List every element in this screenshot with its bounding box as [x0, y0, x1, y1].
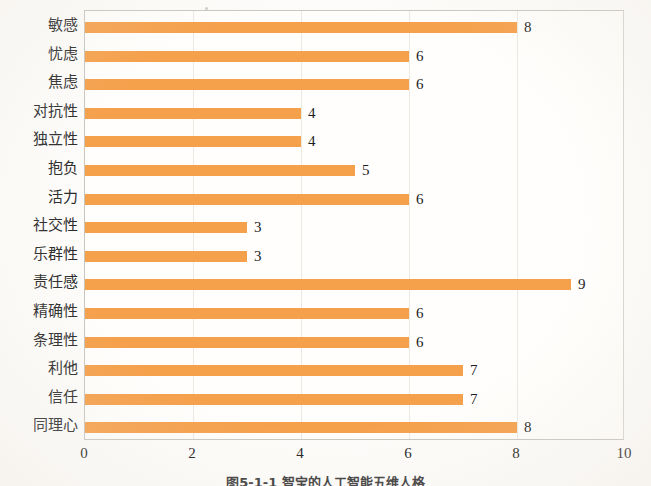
bar-value-label: 3	[254, 249, 262, 264]
bar	[85, 394, 463, 405]
category-label: 焦虑	[0, 74, 78, 90]
bar-row	[85, 413, 623, 442]
bar-row	[85, 185, 623, 214]
category-label: 忧虑	[0, 46, 78, 62]
category-label: 信任	[0, 389, 78, 405]
bar-row	[85, 328, 623, 357]
bar	[85, 365, 463, 376]
bar-value-label: 4	[308, 106, 316, 121]
bar-row	[85, 299, 623, 328]
bar-row	[85, 127, 623, 156]
bar-row	[85, 213, 623, 242]
category-label: 同理心	[0, 417, 78, 433]
category-label: 精确性	[0, 303, 78, 319]
bar-value-label: 6	[416, 335, 424, 350]
bar	[85, 422, 517, 433]
bar	[85, 251, 247, 262]
bar	[85, 79, 409, 90]
category-axis-labels: 敏感忧虑焦虑对抗性独立性抱负活力社交性乐群性责任感精确性条理性利他信任同理心	[0, 10, 78, 440]
bar	[85, 136, 301, 147]
x-tick-label: 2	[172, 445, 212, 462]
plot-area: 866445633966778	[84, 10, 624, 440]
bar-value-label: 8	[524, 20, 532, 35]
bar-value-label: 8	[524, 420, 532, 435]
category-label: 活力	[0, 189, 78, 205]
chart-page: 866445633966778 敏感忧虑焦虑对抗性独立性抱负活力社交性乐群性责任…	[0, 0, 651, 486]
bar-row	[85, 99, 623, 128]
bar	[85, 108, 301, 119]
category-label: 乐群性	[0, 246, 78, 262]
bar	[85, 22, 517, 33]
bar-value-label: 6	[416, 306, 424, 321]
x-tick-label: 8	[496, 445, 536, 462]
bar-row	[85, 270, 623, 299]
bar-row	[85, 242, 623, 271]
bar	[85, 308, 409, 319]
bar-value-label: 7	[470, 392, 478, 407]
bar	[85, 51, 409, 62]
bar-value-label: 6	[416, 192, 424, 207]
bar-value-label: 4	[308, 134, 316, 149]
bar-row	[85, 70, 623, 99]
x-tick-label: 6	[388, 445, 428, 462]
scan-artifact-speck	[205, 7, 208, 10]
bar	[85, 165, 355, 176]
bar	[85, 337, 409, 348]
x-axis: 0246810	[84, 441, 624, 465]
bar-value-label: 7	[470, 363, 478, 378]
x-tick-label: 4	[280, 445, 320, 462]
bar-value-label: 9	[578, 277, 586, 292]
category-label: 责任感	[0, 274, 78, 290]
bar-row	[85, 13, 623, 42]
category-label: 社交性	[0, 217, 78, 233]
category-label: 对抗性	[0, 103, 78, 119]
bar-value-label: 3	[254, 220, 262, 235]
bar	[85, 194, 409, 205]
category-label: 抱负	[0, 160, 78, 176]
bar-row	[85, 156, 623, 185]
category-label: 条理性	[0, 332, 78, 348]
x-tick-label: 0	[64, 445, 104, 462]
bar-row	[85, 385, 623, 414]
bar-value-label: 5	[362, 163, 370, 178]
bar	[85, 222, 247, 233]
category-label: 独立性	[0, 131, 78, 147]
bar-value-label: 6	[416, 49, 424, 64]
figure-caption: 图5-1-1 智宝的人工智能五维人格	[0, 472, 651, 486]
bar-row	[85, 42, 623, 71]
bar-row	[85, 356, 623, 385]
category-label: 利他	[0, 360, 78, 376]
x-tick-label: 10	[604, 445, 644, 462]
bar	[85, 279, 571, 290]
bar-value-label: 6	[416, 77, 424, 92]
category-label: 敏感	[0, 17, 78, 33]
